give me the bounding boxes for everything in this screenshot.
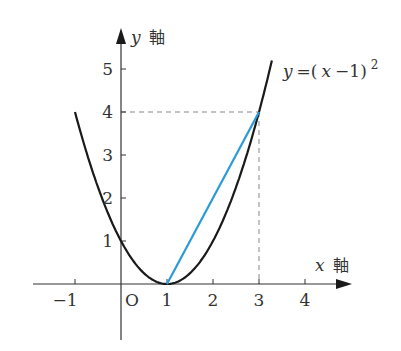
function-open: =( (297, 61, 318, 81)
x-tick-label: 4 (300, 290, 311, 310)
x-axis-suffix: 軸 (333, 256, 349, 275)
x-axis-var: x (315, 255, 325, 275)
x-tick-label: −1 (52, 290, 77, 310)
origin-label: O (125, 290, 139, 310)
function-label: y =( x −1) 2 (282, 58, 378, 81)
x-tick-label: 2 (208, 290, 219, 310)
y-tick-label: 1 (102, 231, 113, 251)
x-axis-arrow-icon (336, 279, 352, 289)
x-axis-label: x 軸 (315, 255, 349, 275)
function-exponent: 2 (371, 58, 379, 72)
x-tick-label: 3 (254, 290, 265, 310)
secant-line (167, 112, 259, 284)
y-tick-label: 3 (102, 145, 113, 165)
function-var: x (322, 61, 332, 81)
y-tick-label: 5 (102, 59, 113, 79)
y-tick-label: 2 (102, 188, 113, 208)
y-axis-label: y 軸 (130, 27, 165, 47)
y-axis-var: y (130, 27, 141, 47)
x-tick-label: 1 (162, 290, 173, 310)
y-axis-arrow-icon (116, 28, 126, 44)
function-graph: −1 O 1 2 3 4 1 2 3 4 5 y 軸 x 軸 y =( x −1… (0, 0, 401, 351)
y-axis-suffix: 軸 (149, 28, 165, 47)
y-tick-label: 4 (102, 102, 113, 122)
y-ticks (121, 69, 126, 241)
function-close: −1) (335, 61, 367, 81)
function-lhs: y (282, 61, 293, 81)
x-ticks (75, 279, 305, 284)
